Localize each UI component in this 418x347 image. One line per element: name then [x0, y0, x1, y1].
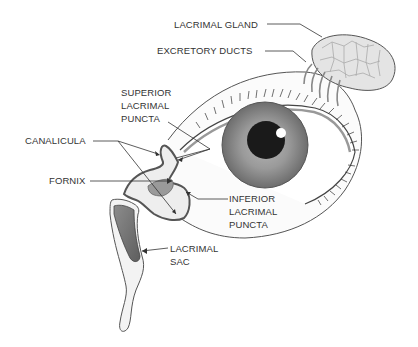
label-inferior-puncta-1: INFERIOR [229, 193, 275, 204]
label-canalicula: CANALICULA [25, 135, 86, 146]
label-superior-puncta-1: SUPERIOR [121, 87, 171, 98]
label-lacrimal-sac-1: LACRIMAL [170, 243, 218, 254]
pupil-highlight [276, 128, 286, 138]
label-superior-puncta-3: PUNCTA [121, 113, 160, 124]
label-lacrimal-gland: LACRIMAL GLAND [174, 19, 258, 30]
label-inferior-puncta-3: PUNCTA [229, 219, 268, 230]
label-excretory-ducts: EXCRETORY DUCTS [157, 45, 252, 56]
lacrimal-apparatus-diagram: LACRIMAL GLAND EXCRETORY DUCTS SUPERIOR … [0, 0, 418, 347]
label-lacrimal-sac-2: SAC [170, 256, 190, 267]
label-inferior-puncta-2: LACRIMAL [229, 206, 277, 217]
pupil [247, 121, 285, 159]
label-fornix: FORNIX [49, 175, 86, 186]
label-superior-puncta-2: LACRIMAL [121, 100, 169, 111]
